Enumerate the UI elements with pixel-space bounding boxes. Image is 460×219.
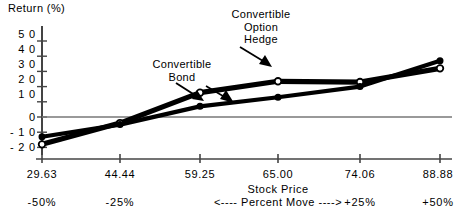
data-point: [39, 141, 46, 148]
data-point: [437, 58, 443, 64]
data-point: [39, 134, 45, 140]
data-point: [275, 78, 282, 85]
data-point: [117, 122, 123, 128]
data-point: [357, 84, 363, 90]
chart-canvas: Return (%) 5 0 4 0 3 0 2 0 1 0 0 - 1 0 -…: [0, 0, 460, 219]
data-point: [197, 104, 203, 110]
data-point: [437, 65, 444, 72]
arrowhead-convertible-option-hedge: [259, 55, 272, 67]
data-point: [275, 94, 281, 100]
chart-plot: [0, 0, 460, 219]
series-line-convertible-bond: [42, 61, 440, 137]
